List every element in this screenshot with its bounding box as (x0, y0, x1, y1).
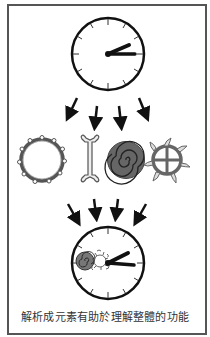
arrow-icon (68, 204, 77, 220)
cross-wheel-icon (144, 138, 190, 183)
arrow-icon (119, 106, 121, 124)
bottom-clock (72, 227, 144, 299)
arrow-icon (69, 98, 77, 115)
arrow-icon (94, 199, 96, 215)
diagram-caption: 解析成元素有助於理解整體的功能 (0, 308, 210, 324)
spiral-disc-icon (105, 142, 144, 184)
diagram-canvas (0, 0, 210, 337)
arrow-icon (139, 98, 146, 115)
arrow-icon (137, 204, 146, 220)
toothed-ring-icon (18, 136, 67, 184)
arrows-bottom (68, 199, 146, 220)
arrow-icon (95, 106, 97, 124)
top-clock (72, 18, 144, 90)
arrows-top (69, 98, 146, 124)
arrow-icon (116, 199, 118, 215)
wrench-bar-icon (81, 135, 99, 182)
minute-hand (108, 263, 134, 265)
